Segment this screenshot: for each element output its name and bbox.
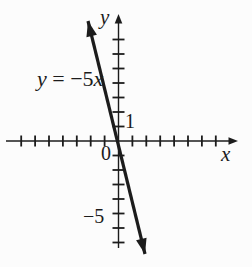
origin-label: 0 [101, 143, 111, 163]
x-axis-label: x [221, 144, 230, 165]
equation-variable: x [94, 66, 104, 91]
coordinate-plane-figure: y = −5x y x 1 0 −5 [0, 0, 252, 267]
x-unit-tick-label: 1 [125, 111, 135, 131]
y-neg5-tick-label: −5 [83, 206, 104, 226]
equation-lhs: y [37, 66, 47, 91]
equation-coefficient: −5 [70, 66, 93, 91]
equation-label: y = −5x [37, 68, 103, 90]
graph-canvas [0, 0, 252, 267]
y-axis-label: y [100, 7, 109, 28]
equation-equals: = [47, 66, 70, 91]
